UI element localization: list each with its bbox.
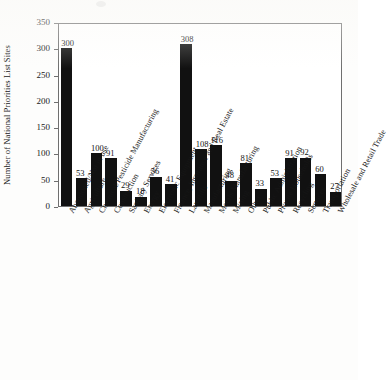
y-axis-tick-label: 0	[46, 201, 51, 211]
y-axis-tick-label: 150	[37, 122, 51, 132]
y-axis-tick-label: 50	[41, 175, 50, 185]
y-axis-tick-label: 100	[37, 148, 51, 158]
y-axis-title: Number of National Priorities List Sites	[0, 23, 14, 207]
y-axis-tick-label: 300	[37, 43, 51, 53]
bar-value-label: 53	[76, 169, 85, 178]
y-axis-tick-mark	[54, 207, 58, 208]
y-axis-tick-label: 250	[37, 70, 51, 80]
y-axis-tick-label: 350	[37, 17, 51, 27]
bar	[61, 48, 73, 206]
y-axis-tick-label: 200	[37, 96, 51, 106]
bar-value-label: 33	[255, 179, 264, 188]
bar-value-label: 308	[181, 35, 194, 44]
bar-value-label: 300	[61, 39, 74, 48]
bar-value-label: 60	[315, 165, 324, 174]
bar-value-label: 53	[270, 169, 279, 178]
scan-artifact	[96, 1, 106, 7]
